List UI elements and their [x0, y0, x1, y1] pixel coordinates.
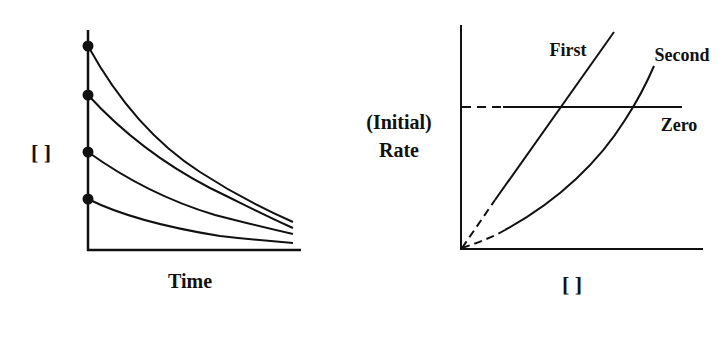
zero-label: Zero: [661, 115, 698, 135]
initial-point-4: [83, 194, 94, 205]
y-axis-label-line2: Rate: [379, 139, 419, 161]
initial-point-1: [83, 41, 94, 52]
y-axis-label-line1: (Initial): [366, 111, 432, 134]
second-label: Second: [654, 45, 709, 65]
decay-curve-4: [88, 199, 293, 243]
first-order-dashed: [462, 200, 495, 248]
x-axis-label: [ ]: [562, 272, 582, 297]
x-axis-label: Time: [168, 270, 212, 292]
figure-canvas: [ ] Time First Second Zero (Initial) Rat…: [0, 0, 723, 337]
rate-concentration-chart: First Second Zero (Initial) Rate [ ]: [366, 25, 709, 297]
decay-curve-1: [88, 46, 293, 222]
decay-curve-3: [88, 152, 293, 234]
second-order-dashed: [462, 230, 505, 248]
first-label: First: [550, 40, 587, 60]
initial-point-3: [83, 147, 94, 158]
initial-point-2: [83, 90, 94, 101]
y-axis-label: [ ]: [31, 140, 51, 165]
second-order-line: [505, 66, 654, 230]
concentration-time-chart: [ ] Time: [31, 30, 301, 292]
